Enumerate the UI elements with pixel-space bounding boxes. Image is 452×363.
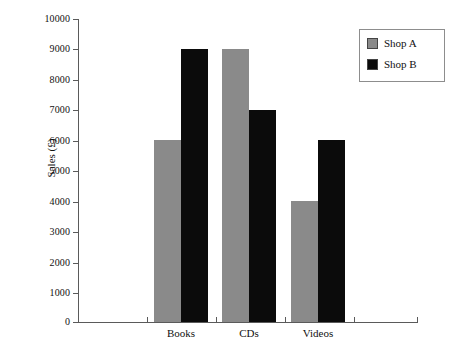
y-tick-label-9000-wrap: 9000: [16, 44, 70, 54]
y-tick-label-6000: 6000: [24, 136, 70, 146]
bar-shop-a-books: [154, 140, 181, 322]
y-tick-label-8000: 8000: [24, 75, 70, 85]
bar-shop-b-books: [181, 49, 208, 322]
x-tick-1: [216, 317, 217, 323]
bar-shop-a-videos: [291, 201, 318, 322]
y-tick-label-0: 0: [24, 317, 70, 327]
legend-item-shop-a: Shop A: [367, 36, 417, 50]
y-axis-line: [78, 19, 79, 323]
legend: Shop A Shop B: [359, 29, 445, 82]
y-tick-label-9000: 9000: [24, 44, 70, 54]
legend-item-shop-b: Shop B: [367, 57, 417, 71]
x-tick-3: [354, 317, 355, 323]
y-tick-label-5000-wrap: 5000: [16, 166, 70, 176]
y-tick-label-3000: 3000: [24, 227, 70, 237]
y-tick-label-2000-wrap: 2000: [16, 258, 70, 268]
y-tick-label-7000: 7000: [24, 105, 70, 115]
y-tick-label-10000: 10000: [24, 14, 70, 24]
x-tick-2: [285, 317, 286, 323]
x-tick-4: [417, 317, 418, 323]
y-tick-label-0-wrap: 0: [16, 317, 70, 327]
y-tick-label-1000-wrap: 1000: [16, 288, 70, 298]
legend-swatch-shop-a: [367, 38, 378, 49]
x-category-label-videos: Videos: [278, 327, 358, 339]
y-tick-label-2000: 2000: [24, 258, 70, 268]
y-tick-label-1000: 1000: [24, 288, 70, 298]
legend-swatch-shop-b: [367, 59, 378, 70]
bar-shop-b-cds: [249, 110, 276, 322]
y-tick-label-4000-wrap: 4000: [16, 197, 70, 207]
bar-chart: Sales (£) 10000 9000 8000 7000 6000 5000…: [0, 0, 452, 363]
legend-label-shop-b: Shop B: [384, 58, 417, 70]
y-tick-label-4000: 4000: [24, 197, 70, 207]
y-tick-label-7000-wrap: 7000: [16, 105, 70, 115]
y-tick-label-8000-wrap: 8000: [16, 75, 70, 85]
y-tick-label-6000-wrap: 6000: [16, 136, 70, 146]
x-axis-line: [78, 322, 418, 323]
legend-label-shop-a: Shop A: [384, 37, 417, 49]
y-tick-label-10000-wrap: 10000: [16, 14, 70, 24]
bar-shop-b-videos: [318, 140, 345, 322]
y-tick-label-3000-wrap: 3000: [16, 227, 70, 237]
x-tick-0: [147, 317, 148, 323]
y-tick-label-5000: 5000: [24, 166, 70, 176]
x-category-label-cds: CDs: [209, 327, 289, 339]
y-axis-title: Sales (£): [45, 123, 57, 193]
bar-shop-a-cds: [222, 49, 249, 322]
